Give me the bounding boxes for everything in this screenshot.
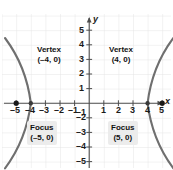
x-tick-label-pos4: 4: [145, 106, 150, 115]
x-tick-label-pos2: 2: [116, 106, 121, 115]
x-axis-label: x: [165, 97, 170, 106]
y-tick-label-pos2: 2: [79, 69, 84, 78]
y-tick-label-neg4: –4: [76, 142, 86, 151]
x-tick-label-neg5: –5: [10, 106, 20, 115]
x-tick-label-neg4: –4: [25, 106, 35, 115]
x-tick-label-pos5: 5: [159, 106, 164, 115]
vertex-right-coords: (4, 0): [109, 55, 133, 65]
vertex-left-annotation: Vertex (–4, 0): [34, 43, 64, 67]
y-tick-label-neg3: –3: [76, 128, 86, 137]
x-tick-label-pos1: 1: [101, 106, 106, 115]
focus-right-annotation: Focus (5, 0): [108, 121, 138, 145]
coordinate-plane-svg: [0, 0, 173, 170]
y-axis-label: y: [93, 15, 98, 24]
vertex-right-annotation: Vertex (4, 0): [106, 43, 136, 67]
focus-right-title: Focus: [111, 123, 135, 133]
focus-left-title: Focus: [30, 123, 54, 133]
y-tick-label-neg5: –5: [76, 157, 86, 166]
focus-left-coords: (–5, 0): [30, 133, 54, 143]
vertex-left-title: Vertex: [37, 45, 61, 55]
y-tick-label-pos1: 1: [79, 84, 84, 93]
y-tick-label-neg2: –2: [76, 113, 86, 122]
focus-right-coords: (5, 0): [111, 133, 135, 143]
x-tick-label-neg3: –3: [39, 106, 49, 115]
y-tick-label-pos5: 5: [79, 26, 84, 35]
vertex-right-title: Vertex: [109, 45, 133, 55]
x-tick-label-neg2: –2: [54, 106, 64, 115]
hyperbola-graph-figure: y x –5 –4 –3 –2 –1 1 2 3 4 5 5 4 3 2 1 –…: [0, 0, 173, 170]
vertex-left-coords: (–4, 0): [37, 55, 61, 65]
y-tick-label-pos4: 4: [79, 40, 84, 49]
focus-left-annotation: Focus (–5, 0): [27, 121, 57, 145]
y-tick-label-pos3: 3: [79, 55, 84, 64]
x-tick-label-pos3: 3: [130, 106, 135, 115]
grid-lines: [2, 14, 171, 168]
